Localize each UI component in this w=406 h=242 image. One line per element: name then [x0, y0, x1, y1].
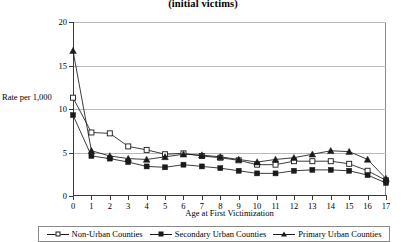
data-point-marker	[347, 168, 352, 173]
x-axis-tick-label: 3	[126, 201, 130, 211]
data-point-marker	[347, 161, 352, 166]
filled-triangle-marker-icon	[273, 230, 295, 239]
x-axis-tick-label: 5	[163, 201, 167, 211]
x-axis-tick-label: 17	[382, 201, 391, 211]
series-secondary-urban-counties	[71, 113, 389, 186]
data-point-marker	[89, 130, 94, 135]
data-point-marker	[71, 113, 76, 118]
legend-item-primary-urban-counties[interactable]: Primary Urban Counties	[273, 229, 381, 239]
y-axis-tick-label: 10	[59, 104, 68, 114]
data-point-marker	[163, 165, 168, 170]
data-point-marker	[364, 156, 371, 162]
data-point-marker	[310, 167, 315, 172]
x-axis-tick	[386, 195, 387, 200]
legend-label-primary-urban-counties: Primary Urban Counties	[298, 229, 381, 239]
x-axis-tick-label: 4	[145, 201, 149, 211]
data-point-marker	[328, 167, 333, 172]
x-axis-tick-label: 6	[181, 201, 185, 211]
data-point-marker	[273, 171, 278, 176]
x-axis-tick-label: 13	[308, 201, 317, 211]
data-point-marker	[218, 166, 223, 171]
x-axis-tick-label: 16	[363, 201, 372, 211]
filled-square-marker-icon	[150, 230, 172, 239]
data-point-marker	[181, 162, 186, 167]
data-point-marker	[144, 147, 149, 152]
y-axis-tick-label: 0	[63, 191, 67, 201]
data-point-marker	[144, 164, 149, 169]
series-line	[73, 98, 386, 181]
data-point-marker	[328, 159, 333, 164]
x-axis-title: Age at First Victimization	[73, 208, 386, 218]
chart-legend: Non-Urban Counties Secondary Urban Count…	[38, 226, 390, 242]
x-axis-tick-label: 0	[71, 201, 75, 211]
series-line	[73, 115, 386, 183]
legend-label-non-urban-counties: Non-Urban Counties	[72, 229, 143, 239]
x-axis-tick-label: 9	[237, 201, 241, 211]
open-square-marker-icon	[47, 230, 69, 239]
series-primary-urban-counties	[70, 47, 390, 181]
y-axis-tick-label: 15	[59, 61, 68, 71]
data-point-marker	[126, 144, 131, 149]
data-point-marker	[365, 173, 370, 178]
data-point-marker	[255, 171, 260, 176]
data-point-marker	[89, 153, 94, 158]
data-point-marker	[291, 168, 296, 173]
data-point-marker	[71, 95, 76, 100]
x-axis-tick-label: 12	[290, 201, 299, 211]
data-point-marker	[236, 168, 241, 173]
x-axis-tick-label: 2	[108, 201, 112, 211]
y-axis-title: Rate per 1,000	[2, 92, 52, 102]
y-axis-tick-label: 20	[59, 17, 68, 27]
data-point-marker	[107, 131, 112, 136]
x-axis-tick-label: 7	[200, 201, 204, 211]
x-axis-tick-label: 11	[271, 201, 279, 211]
legend-item-secondary-urban-counties[interactable]: Secondary Urban Counties	[150, 229, 267, 239]
chart-root: (initial victims) Rate per 1,000 Age at …	[0, 0, 406, 242]
legend-label-secondary-urban-counties: Secondary Urban Counties	[175, 229, 267, 239]
x-axis-tick-label: 14	[327, 201, 336, 211]
x-axis-tick-label: 8	[218, 201, 222, 211]
data-series-layer	[73, 22, 386, 196]
x-axis-tick-label: 10	[253, 201, 262, 211]
chart-title: (initial victims)	[0, 0, 406, 10]
x-axis-tick-label: 15	[345, 201, 354, 211]
y-axis-tick-label: 5	[63, 148, 67, 158]
legend-item-non-urban-counties[interactable]: Non-Urban Counties	[47, 229, 143, 239]
data-point-marker	[70, 47, 77, 53]
plot-area: 05101520 01234567891011121314151617	[73, 22, 386, 196]
data-point-marker	[273, 162, 278, 167]
x-axis-tick-label: 1	[89, 201, 93, 211]
data-point-marker	[310, 159, 315, 164]
data-point-marker	[199, 164, 204, 169]
